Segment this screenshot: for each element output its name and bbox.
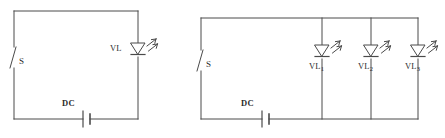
lamp-3-label: VL3 (405, 61, 420, 71)
lamp-1-label: VL1 (309, 61, 324, 71)
led-1-emission-arrows-icon (331, 41, 342, 53)
led-2-emission-arrows-icon (380, 41, 391, 53)
right-circuit (197, 18, 438, 127)
left-switch-label: S (19, 56, 24, 66)
left-circuit (10, 11, 158, 127)
left-source-label: DC (62, 98, 75, 108)
right-source-label: DC (241, 98, 254, 108)
right-switch-label: S (206, 59, 211, 69)
circuit-diagram-canvas (0, 0, 445, 138)
right-switch-blade-icon[interactable] (197, 50, 203, 71)
led-3-triangle-icon (411, 45, 425, 56)
left-lamp-label: VL (110, 43, 122, 53)
left-led-emission-arrows-icon (147, 39, 158, 51)
lamp-2-label: VL2 (358, 61, 373, 71)
led-1-triangle-icon (315, 45, 329, 56)
left-led-triangle-icon (131, 43, 145, 54)
led-2-triangle-icon (364, 45, 378, 56)
left-switch-blade-icon[interactable] (10, 47, 16, 68)
led-3-emission-arrows-icon (427, 41, 438, 53)
